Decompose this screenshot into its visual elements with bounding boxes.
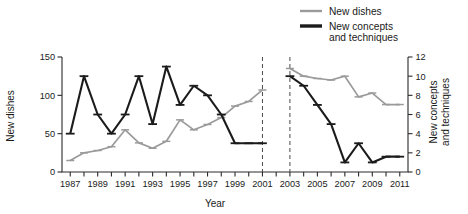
legend-label-new-concepts-line2: and techniques [329, 32, 398, 43]
chart-tick-labels: 0501001500246810121987198919911993199519… [40, 52, 426, 189]
x-tick-label: 2007 [335, 179, 355, 189]
x-axis-title: Year [205, 198, 226, 209]
right-axis-title-line1: New concepts [428, 81, 439, 144]
x-tick-label: 2001 [252, 179, 272, 189]
chart-series [66, 67, 404, 163]
x-tick-label: 1999 [225, 179, 245, 189]
line-chart: New dishes New concepts and techniques 0… [0, 0, 468, 214]
left-tick-label: 150 [40, 52, 55, 62]
left-tick-label: 50 [45, 129, 55, 139]
x-tick-label: 2009 [362, 179, 382, 189]
right-tick-label: 10 [416, 72, 426, 82]
legend-label-new-concepts-line1: New concepts [329, 21, 393, 32]
x-tick-label: 2005 [307, 179, 327, 189]
left-tick-label: 100 [40, 91, 55, 101]
series-line-new-concepts [70, 67, 262, 144]
x-tick-label: 1991 [115, 179, 135, 189]
x-tick-label: 1989 [87, 179, 107, 189]
right-tick-label: 6 [416, 110, 421, 120]
right-tick-label: 0 [416, 167, 421, 177]
x-tick-label: 1997 [197, 179, 217, 189]
legend-label-new-dishes: New dishes [329, 6, 382, 17]
left-tick-label: 0 [50, 167, 55, 177]
x-tick-label: 1993 [142, 179, 162, 189]
chart-container: New dishes New concepts and techniques 0… [0, 0, 468, 214]
right-axis-title-line2: and techniques [440, 78, 451, 146]
chart-axes [58, 57, 413, 177]
right-tick-label: 2 [416, 148, 421, 158]
chart-legend: New dishes New concepts and techniques [300, 6, 398, 44]
x-tick-label: 2011 [390, 179, 410, 189]
left-axis-title: New dishes [5, 90, 16, 142]
x-tick-label: 1995 [170, 179, 190, 189]
x-tick-label: 1987 [60, 179, 80, 189]
right-tick-label: 12 [416, 52, 426, 62]
right-tick-label: 8 [416, 91, 421, 101]
series-line-new-concepts [290, 76, 400, 162]
period-dividers [262, 57, 289, 172]
right-tick-label: 4 [416, 129, 421, 139]
x-tick-label: 2003 [280, 179, 300, 189]
